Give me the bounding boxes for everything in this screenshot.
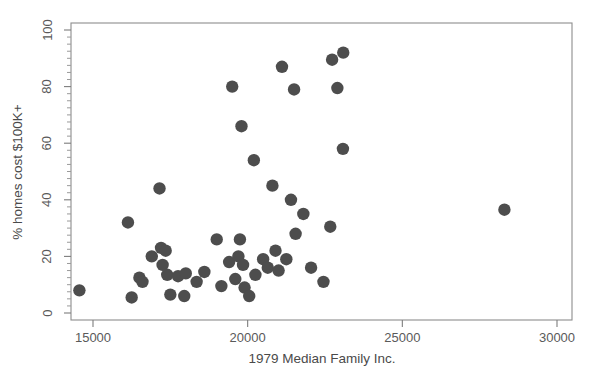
data-point (498, 204, 510, 216)
data-point (161, 269, 173, 281)
data-point (262, 262, 274, 274)
y-tick-label: 20 (40, 249, 55, 263)
y-axis-title: % homes cost $100K+ (10, 104, 25, 240)
data-point (178, 290, 190, 302)
data-point (226, 80, 238, 92)
data-point (122, 216, 134, 228)
data-point (269, 245, 281, 257)
data-point (237, 259, 249, 271)
y-tick-label: 0 (40, 309, 55, 316)
data-point (215, 280, 227, 292)
data-point (180, 267, 192, 279)
data-point (289, 228, 301, 240)
data-point (249, 269, 261, 281)
data-point (198, 266, 210, 278)
data-point (125, 291, 137, 303)
data-point (288, 83, 300, 95)
data-point (248, 154, 260, 166)
data-point (317, 276, 329, 288)
x-tick-label: 15000 (75, 330, 111, 345)
data-point (276, 61, 288, 73)
x-tick-label: 30000 (539, 330, 575, 345)
data-point (285, 194, 297, 206)
data-point (153, 182, 165, 194)
x-tick-label: 25000 (384, 330, 420, 345)
data-point (324, 220, 336, 232)
y-tick-label: 80 (40, 79, 55, 93)
data-point (190, 276, 202, 288)
plot-canvas: 020406080100 15000200002500030000 1979 M… (0, 0, 593, 385)
y-tick-label: 100 (40, 19, 55, 41)
x-axis-title: 1979 Median Family Inc. (248, 351, 395, 366)
y-tick-label: 40 (40, 193, 55, 207)
data-point (235, 120, 247, 132)
data-point (337, 46, 349, 58)
data-point (305, 262, 317, 274)
data-point (211, 233, 223, 245)
y-tick-label: 60 (40, 136, 55, 150)
data-point (164, 288, 176, 300)
data-point (326, 54, 338, 66)
data-point (331, 82, 343, 94)
figure-background (0, 0, 593, 385)
data-point (297, 208, 309, 220)
data-point (136, 276, 148, 288)
scatter-plot-figure: 020406080100 15000200002500030000 1979 M… (0, 0, 593, 385)
data-point (337, 143, 349, 155)
data-point (146, 250, 158, 262)
data-point (73, 284, 85, 296)
x-tick-label: 20000 (230, 330, 266, 345)
data-point (159, 245, 171, 257)
data-point (243, 290, 255, 302)
data-point (229, 273, 241, 285)
data-point (234, 233, 246, 245)
data-point (272, 264, 284, 276)
data-point (266, 179, 278, 191)
data-point (280, 253, 292, 265)
